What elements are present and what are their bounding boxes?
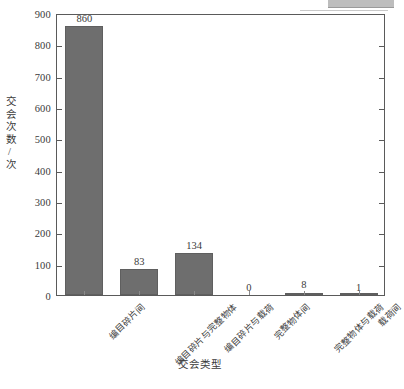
y-axis-tick-right: [379, 172, 384, 173]
y-axis-tick-label: 800: [35, 40, 51, 51]
y-axis-tick-left: [57, 140, 62, 141]
y-axis-tick-left: [57, 78, 62, 79]
x-axis-category-label: 完整物体间: [271, 300, 313, 342]
y-axis-tick-label: 900: [35, 9, 51, 20]
y-axis-title: 交会次数/次: [2, 96, 17, 171]
y-axis-tick-label: 100: [35, 259, 51, 270]
y-axis-tick-label: 500: [35, 134, 51, 145]
x-axis-title: 交会类型: [0, 356, 400, 371]
y-axis-tick-left: [57, 203, 62, 204]
x-axis-category-label: 完整物体与载荷: [331, 300, 386, 355]
top-rule-line: [300, 10, 388, 11]
plot-area: 86083134081: [57, 15, 384, 295]
y-axis-tick-left: [57, 172, 62, 173]
bar-value-label: 8: [301, 279, 306, 290]
y-axis-tick-right: [379, 203, 384, 204]
y-axis-tick-left: [57, 234, 62, 235]
bar-value-label: 134: [186, 240, 202, 251]
y-axis-tick-left: [57, 266, 62, 267]
y-axis-tick-label: 0: [46, 291, 51, 302]
y-axis-tick-label: 400: [35, 165, 51, 176]
y-axis-tick-right: [379, 109, 384, 110]
y-axis-tick-label: 600: [35, 103, 51, 114]
x-axis-tick: [304, 291, 305, 295]
bar-value-label: 860: [77, 13, 93, 24]
y-axis-tick-label: 200: [35, 228, 51, 239]
y-axis-tick-right: [379, 266, 384, 267]
bar-value-label: 83: [134, 256, 145, 267]
y-axis-tick-right: [379, 46, 384, 47]
y-axis-tick-label: 300: [35, 197, 51, 208]
x-axis-tick: [139, 291, 140, 295]
plot-frame: 86083134081: [56, 14, 385, 296]
y-axis-tick-right: [379, 78, 384, 79]
figure-caption: [0, 379, 400, 389]
bar: [65, 26, 103, 295]
bar: [175, 253, 213, 295]
y-axis-tick-left: [57, 46, 62, 47]
y-axis-tick-right: [379, 234, 384, 235]
y-axis-tick-right: [379, 140, 384, 141]
x-axis-tick: [84, 291, 85, 295]
y-axis-tick-left: [57, 109, 62, 110]
x-axis-category-label: 编目碎片间: [106, 300, 148, 342]
x-axis-tick: [194, 291, 195, 295]
bar-value-label: 0: [246, 282, 251, 293]
top-clipped-artifact: [328, 0, 394, 8]
y-axis-tick-label: 700: [35, 71, 51, 82]
bar-value-label: 1: [356, 282, 361, 293]
